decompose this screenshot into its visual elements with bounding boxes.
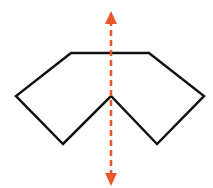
arrowhead-up-icon	[105, 11, 117, 24]
diagram-canvas	[0, 0, 213, 188]
arrowhead-down-icon	[105, 173, 117, 186]
